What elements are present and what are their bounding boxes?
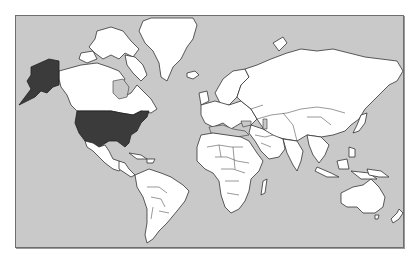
greenland bbox=[139, 18, 197, 81]
southeast-asia bbox=[307, 135, 329, 163]
africa bbox=[197, 133, 263, 213]
novaya-zemlya bbox=[273, 37, 287, 51]
baffin-island bbox=[125, 55, 147, 81]
south-america bbox=[135, 169, 189, 243]
russia-asia bbox=[237, 49, 403, 141]
caspian-sea bbox=[263, 119, 267, 129]
india bbox=[283, 139, 303, 171]
central-america bbox=[119, 161, 135, 177]
cuba bbox=[129, 153, 147, 159]
world-map-svg bbox=[16, 16, 403, 247]
tasmania bbox=[375, 215, 379, 219]
philippines bbox=[349, 147, 355, 157]
world-map bbox=[15, 15, 404, 248]
canadian-arctic-islands bbox=[89, 27, 139, 59]
iceland bbox=[187, 71, 199, 79]
black-sea bbox=[241, 121, 251, 127]
hispaniola bbox=[147, 159, 155, 163]
madagascar bbox=[261, 179, 267, 195]
new-zealand bbox=[391, 209, 403, 223]
mexico bbox=[85, 141, 123, 171]
arctic-island-west bbox=[79, 51, 97, 63]
alaska-highlighted bbox=[19, 59, 59, 105]
australia bbox=[341, 179, 385, 213]
